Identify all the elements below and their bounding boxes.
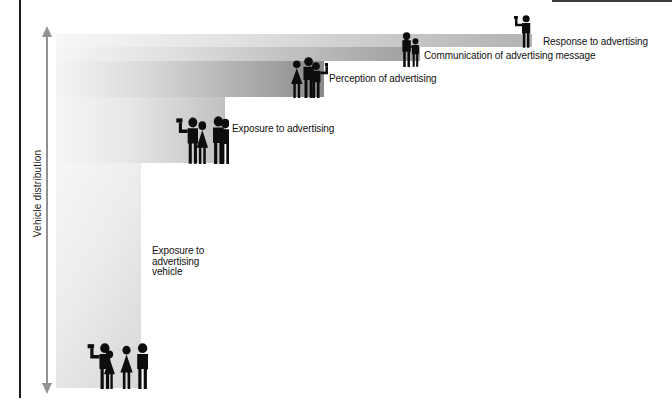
person-raising-flag-icon <box>514 13 542 50</box>
frame-line-left <box>19 0 21 398</box>
axis-arrow-up-icon <box>42 26 52 37</box>
label-exposure: Exposure to advertising <box>232 123 334 134</box>
label-perception: Perception of advertising <box>329 73 437 84</box>
label-exposure-vehicle-line3: vehicle <box>152 266 182 277</box>
frame-line-top <box>552 0 672 2</box>
axis-arrow-down-icon <box>42 383 52 394</box>
bar-response <box>56 34 532 47</box>
bar-communication <box>56 47 420 61</box>
label-exposure-vehicle-line2: advertising <box>152 256 199 267</box>
label-exposure-vehicle: Exposure to advertising vehicle <box>152 246 232 278</box>
label-communication: Communication of advertising message <box>424 50 595 61</box>
people-group-4-icon <box>165 116 229 164</box>
advertising-funnel-figure: Vehicle distribution Response to adverti… <box>0 0 672 417</box>
label-response: Response to advertising <box>543 36 648 47</box>
people-group-5-icon <box>66 343 148 389</box>
vehicle-distribution-axis <box>46 34 48 386</box>
label-exposure-vehicle-line1: Exposure to <box>152 245 204 256</box>
people-group-3-icon <box>283 57 328 98</box>
axis-label: Vehicle distribution <box>32 99 45 289</box>
people-group-2-icon <box>393 32 427 67</box>
